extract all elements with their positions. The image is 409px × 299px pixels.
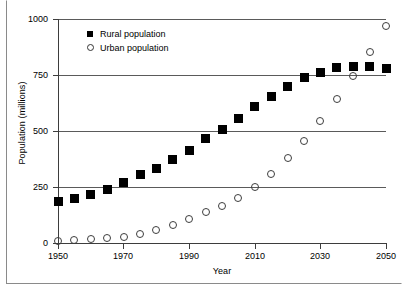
urban-data-point	[366, 48, 374, 56]
urban-data-point	[185, 215, 193, 223]
rural-data-point	[152, 164, 161, 173]
rural-data-point	[316, 68, 325, 77]
rural-data-point	[70, 194, 79, 203]
legend-label: Rural population	[100, 29, 166, 39]
urban-data-point	[349, 72, 357, 80]
x-tick-label: 2010	[237, 251, 273, 261]
y-tick-label: 0	[14, 238, 48, 248]
legend-item-urban: Urban population	[84, 41, 169, 54]
rural-data-point	[119, 178, 128, 187]
rural-data-point	[136, 170, 145, 179]
open-circle-icon	[84, 44, 96, 51]
rural-data-point	[168, 155, 177, 164]
rural-data-point	[382, 64, 391, 73]
urban-data-point	[218, 202, 226, 210]
legend-item-rural: Rural population	[84, 27, 169, 40]
x-tick-label: 2030	[302, 251, 338, 261]
x-axis-title: Year	[58, 266, 386, 276]
rural-data-point	[103, 185, 112, 194]
urban-data-point	[251, 183, 259, 191]
legend-label: Urban population	[100, 43, 169, 53]
rural-data-point	[201, 134, 210, 143]
rural-data-point	[86, 190, 95, 199]
chart-legend: Rural population Urban population	[84, 27, 169, 55]
urban-data-point	[169, 221, 177, 229]
x-tick-label: 2050	[368, 251, 404, 261]
urban-data-point	[300, 137, 308, 145]
x-tick-label: 1970	[105, 251, 141, 261]
rural-data-point	[54, 197, 63, 206]
rural-data-point	[300, 73, 309, 82]
x-tick-label: 1990	[171, 251, 207, 261]
urban-data-point	[234, 194, 242, 202]
urban-data-point	[284, 154, 292, 162]
x-axis-ticks	[58, 243, 386, 249]
rural-data-point	[365, 62, 374, 71]
population-scatter-chart: 1000 750 500 250 0 1950 1970 1990 2010 2…	[0, 0, 409, 299]
urban-data-point	[202, 208, 210, 216]
rural-data-point	[283, 82, 292, 91]
urban-data-point	[54, 237, 62, 245]
rural-data-point	[267, 92, 276, 101]
urban-data-point	[120, 233, 128, 241]
rural-data-point	[185, 146, 194, 155]
rural-data-point	[332, 63, 341, 72]
filled-square-icon	[84, 31, 96, 37]
rural-data-point	[234, 114, 243, 123]
rural-data-point	[218, 125, 227, 134]
y-axis-ticks	[53, 19, 58, 243]
urban-data-point	[136, 230, 144, 238]
rural-data-point	[250, 102, 259, 111]
y-tick-label: 1000	[14, 14, 48, 24]
x-tick-label: 1950	[40, 251, 76, 261]
rural-data-point	[349, 62, 358, 71]
y-axis-title: Population (millions)	[17, 53, 27, 193]
